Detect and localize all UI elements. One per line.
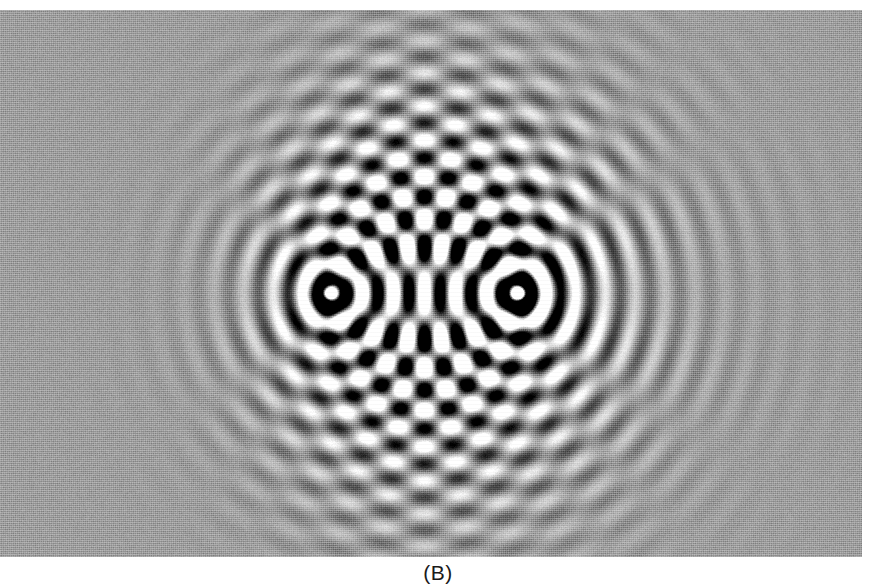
wave-interference-image <box>0 10 862 557</box>
interference-pattern-canvas <box>0 10 862 557</box>
figure-caption: (B) <box>0 562 876 584</box>
